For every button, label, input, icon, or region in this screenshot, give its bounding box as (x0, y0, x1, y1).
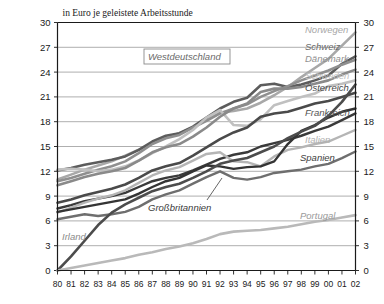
x-axis-tick: 98 (297, 279, 307, 289)
x-axis-tick: 99 (310, 279, 320, 289)
x-axis-tick: 96 (269, 279, 279, 289)
series-label-italien: Italien (305, 134, 330, 145)
series-label-frankreich: Frankreich (305, 107, 350, 118)
series-label-portugal: Portugal (300, 210, 336, 221)
x-axis-tick: 91 (202, 279, 212, 289)
y-axis-tick-right: 12 (364, 166, 375, 177)
y-axis-tick-left: 12 (40, 166, 51, 177)
y-axis-tick-left: 6 (45, 215, 50, 226)
series-label-grobritannien: Großbritannien (148, 202, 211, 213)
x-axis-tick: 87 (148, 279, 158, 289)
y-axis-tick-right: 24 (364, 67, 375, 78)
x-axis-tick: 00 (324, 279, 334, 289)
y-axis-tick-right: 27 (364, 42, 375, 53)
y-axis-tick-right: 0 (364, 265, 369, 276)
x-axis-tick: 84 (107, 279, 117, 289)
y-axis-tick-right: 3 (364, 240, 369, 251)
y-axis-tick-left: 27 (40, 42, 51, 53)
series-label-westdeutschland: Westdeutschland (148, 51, 221, 62)
y-axis-tick-right: 21 (364, 91, 375, 102)
y-axis-tick-left: 21 (40, 91, 51, 102)
x-axis-tick: 80 (53, 279, 63, 289)
x-axis-tick: 86 (134, 279, 144, 289)
x-axis-tick: 83 (93, 279, 103, 289)
chart-container: in Euro je geleistete Arbeitsstunde00336… (0, 0, 384, 304)
x-axis-tick: 97 (283, 279, 293, 289)
y-axis-tick-left: 24 (40, 67, 51, 78)
x-axis-tick: 95 (256, 279, 266, 289)
series-label-irland: Irland (62, 231, 86, 242)
series-label-schweden: Schweden (305, 70, 349, 81)
y-axis-tick-left: 0 (45, 265, 50, 276)
y-axis-tick-right: 18 (364, 116, 375, 127)
x-axis-tick: 94 (242, 279, 252, 289)
y-axis-tick-right: 6 (364, 215, 369, 226)
y-axis-tick-left: 18 (40, 116, 51, 127)
x-axis-tick: 92 (215, 279, 225, 289)
x-axis-tick: 82 (80, 279, 90, 289)
y-axis-tick-right: 9 (364, 191, 369, 202)
y-axis-tick-right: 30 (364, 17, 375, 28)
chart-title: in Euro je geleistete Arbeitsstunde (63, 8, 193, 18)
y-axis-tick-left: 15 (40, 141, 51, 152)
x-axis-tick: 02 (351, 279, 361, 289)
x-axis-tick: 85 (120, 279, 130, 289)
x-axis-tick: 88 (161, 279, 171, 289)
x-axis-tick: 90 (188, 279, 198, 289)
x-axis-tick: 89 (175, 279, 185, 289)
y-axis-tick-left: 9 (45, 191, 50, 202)
series-label-schweiz: Schweiz (305, 41, 341, 52)
series-label-dnemark: Dänemark (305, 53, 350, 64)
y-axis-tick-left: 30 (40, 17, 51, 28)
series-label-spanien: Spanien (300, 152, 335, 163)
x-axis-tick: 81 (66, 279, 76, 289)
line-chart: in Euro je geleistete Arbeitsstunde00336… (0, 0, 384, 304)
series-label-norwegen: Norwegen (305, 24, 348, 35)
x-axis-tick: 01 (337, 279, 347, 289)
y-axis-tick-right: 15 (364, 141, 375, 152)
x-axis-tick: 93 (229, 279, 239, 289)
y-axis-tick-left: 3 (45, 240, 50, 251)
series-label-sterreich: Österreich (305, 82, 349, 93)
